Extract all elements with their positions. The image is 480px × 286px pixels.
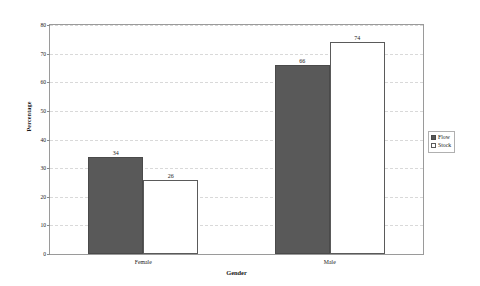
bar-chart: Percentage 010203040506070803426Female66… bbox=[0, 0, 480, 286]
y-tick-mark bbox=[47, 197, 50, 198]
y-axis-title: Percentage bbox=[25, 87, 32, 147]
bar-value-label: 66 bbox=[299, 58, 305, 64]
chart-legend: Flow Stock bbox=[428, 131, 455, 153]
legend-item-stock[interactable]: Stock bbox=[431, 142, 451, 150]
gridline bbox=[50, 25, 423, 26]
bar-female-flow: 34 bbox=[88, 157, 143, 254]
x-tick-label-female: Female bbox=[135, 259, 152, 265]
y-tick-label: 40 bbox=[40, 137, 46, 143]
plot-area: 010203040506070803426Female6674Male bbox=[49, 24, 424, 255]
x-axis-title: Gender bbox=[49, 269, 424, 276]
y-tick-label: 0 bbox=[43, 251, 46, 257]
bar-female-stock: 26 bbox=[143, 180, 198, 254]
y-tick-mark bbox=[47, 140, 50, 141]
y-tick-mark bbox=[47, 111, 50, 112]
bar-male-flow: 66 bbox=[275, 65, 330, 254]
y-tick-label: 80 bbox=[40, 22, 46, 28]
y-tick-mark bbox=[47, 54, 50, 55]
bar-value-label: 34 bbox=[113, 150, 119, 156]
y-tick-mark bbox=[47, 225, 50, 226]
x-tick-label-male: Male bbox=[324, 259, 336, 265]
bar-value-label: 74 bbox=[354, 35, 360, 41]
y-tick-mark bbox=[47, 254, 50, 255]
y-tick-mark bbox=[47, 25, 50, 26]
y-tick-label: 60 bbox=[40, 79, 46, 85]
y-tick-label: 50 bbox=[40, 108, 46, 114]
y-tick-label: 30 bbox=[40, 165, 46, 171]
y-tick-label: 70 bbox=[40, 51, 46, 57]
legend-swatch-stock-icon bbox=[431, 143, 436, 148]
legend-label-stock: Stock bbox=[438, 143, 451, 149]
bar-male-stock: 74 bbox=[330, 42, 385, 254]
legend-label-flow: Flow bbox=[438, 135, 450, 141]
y-tick-mark bbox=[47, 168, 50, 169]
y-tick-label: 20 bbox=[40, 194, 46, 200]
bar-value-label: 26 bbox=[168, 173, 174, 179]
legend-item-flow[interactable]: Flow bbox=[431, 134, 451, 142]
y-tick-mark bbox=[47, 82, 50, 83]
legend-swatch-flow-icon bbox=[431, 135, 436, 140]
y-tick-label: 10 bbox=[40, 222, 46, 228]
